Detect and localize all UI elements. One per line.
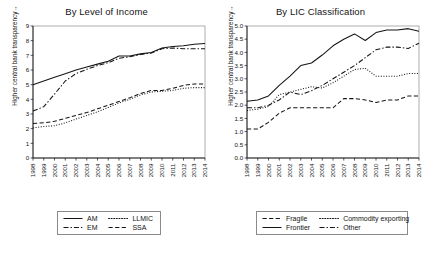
svg-text:2005: 2005 xyxy=(318,163,325,177)
svg-text:3.5: 3.5 xyxy=(235,62,244,69)
svg-text:2012: 2012 xyxy=(394,163,401,177)
legend-left: AMLLMICEMSSA xyxy=(57,211,161,235)
legend-swatch-dash-dot-icon xyxy=(63,224,83,231)
svg-text:0: 0 xyxy=(26,154,30,161)
series-line-commodity-exporting xyxy=(247,68,419,110)
legend-right: FragileCommodity exportingFrontierOther xyxy=(256,211,408,235)
panel-by-lic-classification: By LIC Classification Higher central ban… xyxy=(214,0,427,253)
legend-swatch-dashed-icon xyxy=(108,224,128,231)
svg-text:4: 4 xyxy=(26,96,30,103)
svg-text:6: 6 xyxy=(26,66,30,73)
legend-label: LLMIC xyxy=(132,215,153,222)
legend-label: AM xyxy=(87,215,98,222)
svg-text:2008: 2008 xyxy=(137,163,144,177)
svg-text:7: 7 xyxy=(26,52,30,59)
svg-text:2010: 2010 xyxy=(158,163,165,177)
svg-text:0.5: 0.5 xyxy=(235,141,244,148)
svg-text:2003: 2003 xyxy=(83,163,90,177)
legend-entry-em: EM xyxy=(63,224,99,231)
series-line-fragile xyxy=(247,96,419,129)
panel-by-level-of-income: By Level of Income Higher central bank t… xyxy=(0,0,213,253)
series-line-am xyxy=(33,44,205,85)
legend-entry-fragile: Fragile xyxy=(262,215,310,222)
legend-label: Commodity exporting xyxy=(343,215,409,222)
svg-text:5.0: 5.0 xyxy=(235,22,244,29)
legend-entry-am: AM xyxy=(63,215,99,222)
svg-text:1999: 1999 xyxy=(254,163,261,177)
svg-text:3: 3 xyxy=(26,110,30,117)
svg-text:3.0: 3.0 xyxy=(235,75,244,82)
svg-text:2000: 2000 xyxy=(265,163,272,177)
svg-text:2007: 2007 xyxy=(340,163,347,177)
legend-label: Other xyxy=(343,224,361,231)
svg-text:2014: 2014 xyxy=(415,163,422,177)
svg-text:2008: 2008 xyxy=(351,163,358,177)
legend-swatch-dotted-icon xyxy=(319,215,339,222)
series-line-frontier xyxy=(247,29,419,102)
legend-entry-other: Other xyxy=(319,224,409,231)
two-panel-line-chart-figure: By Level of Income Higher central bank t… xyxy=(0,0,427,253)
svg-text:2011: 2011 xyxy=(383,163,390,177)
svg-text:2001: 2001 xyxy=(61,163,68,177)
svg-text:8: 8 xyxy=(26,37,30,44)
svg-text:2002: 2002 xyxy=(72,163,79,177)
svg-text:2002: 2002 xyxy=(286,163,293,177)
svg-text:2005: 2005 xyxy=(104,163,111,177)
svg-text:2014: 2014 xyxy=(201,163,208,177)
svg-text:1998: 1998 xyxy=(29,163,36,177)
svg-text:0.0: 0.0 xyxy=(235,154,244,161)
svg-text:2012: 2012 xyxy=(180,163,187,177)
series-line-llmic xyxy=(33,88,205,128)
legend-label: EM xyxy=(87,224,98,231)
svg-text:2.5: 2.5 xyxy=(235,88,244,95)
svg-text:1999: 1999 xyxy=(40,163,47,177)
svg-text:1.5: 1.5 xyxy=(235,115,244,122)
svg-text:2010: 2010 xyxy=(372,163,379,177)
legend-entry-commodity-exporting: Commodity exporting xyxy=(319,215,409,222)
svg-text:2006: 2006 xyxy=(329,163,336,177)
svg-text:2: 2 xyxy=(26,125,30,132)
legend-swatch-dashed-icon xyxy=(262,215,282,222)
svg-text:2011: 2011 xyxy=(169,163,176,177)
svg-text:1: 1 xyxy=(26,140,30,147)
svg-text:2007: 2007 xyxy=(126,163,133,177)
svg-text:2013: 2013 xyxy=(190,163,197,177)
svg-text:2004: 2004 xyxy=(308,163,315,177)
legend-entry-llmic: LLMIC xyxy=(108,215,155,222)
svg-text:4.0: 4.0 xyxy=(235,49,244,56)
svg-text:2000: 2000 xyxy=(51,163,58,177)
legend-label: Frontier xyxy=(286,224,310,231)
svg-text:1998: 1998 xyxy=(243,163,250,177)
svg-text:2003: 2003 xyxy=(297,163,304,177)
legend-swatch-solid-icon xyxy=(63,215,83,222)
legend-label: SSA xyxy=(132,224,146,231)
svg-text:2009: 2009 xyxy=(361,163,368,177)
svg-text:2004: 2004 xyxy=(94,163,101,177)
svg-text:9: 9 xyxy=(26,22,30,29)
svg-text:2001: 2001 xyxy=(275,163,282,177)
series-line-other xyxy=(247,43,419,108)
svg-text:2009: 2009 xyxy=(147,163,154,177)
svg-text:1.0: 1.0 xyxy=(235,128,244,135)
legend-swatch-solid-icon xyxy=(262,224,282,231)
legend-entry-ssa: SSA xyxy=(108,224,155,231)
legend-swatch-dash-dot-icon xyxy=(319,224,339,231)
legend-entry-frontier: Frontier xyxy=(262,224,310,231)
legend-label: Fragile xyxy=(286,215,307,222)
series-line-ssa xyxy=(33,84,205,124)
svg-text:2006: 2006 xyxy=(115,163,122,177)
svg-text:4.5: 4.5 xyxy=(235,35,244,42)
legend-swatch-dotted-icon xyxy=(108,215,128,222)
svg-text:2.0: 2.0 xyxy=(235,101,244,108)
svg-text:2013: 2013 xyxy=(404,163,411,177)
svg-text:5: 5 xyxy=(26,81,30,88)
